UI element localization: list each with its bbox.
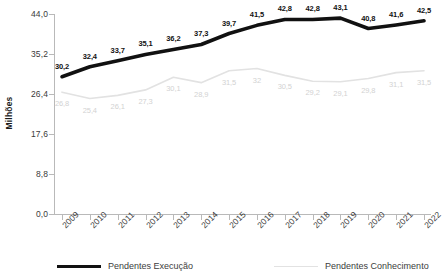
x-axis-tick-mark (313, 215, 314, 220)
data-label-conhecimento: 30,5 (278, 82, 292, 91)
data-label-conhecimento: 28,9 (194, 89, 208, 98)
y-axis-tick-label: 17,6 (31, 129, 48, 139)
data-label-execucao: 42,8 (306, 4, 320, 13)
legend-item-pendentes-conhecimento[interactable]: Pendentes Conhecimento (274, 261, 429, 271)
x-axis-tick-mark (368, 215, 369, 220)
data-label-conhecimento: 27,3 (138, 96, 152, 105)
data-label-conhecimento: 31,5 (417, 77, 431, 86)
data-label-execucao: 40,8 (361, 13, 375, 22)
data-label-execucao: 37,3 (194, 29, 208, 38)
x-axis-tick-mark (118, 215, 119, 220)
y-axis-tick-mark (49, 174, 54, 175)
y-axis-tick-label: 44,0 (31, 9, 48, 19)
x-axis-tick-mark (201, 215, 202, 220)
plot-lines (55, 14, 431, 214)
data-label-conhecimento: 31,1 (389, 79, 403, 88)
x-axis-tick-mark (257, 215, 258, 220)
data-label-conhecimento: 25,4 (83, 105, 97, 114)
y-axis-tick-mark (49, 14, 54, 15)
data-label-execucao: 32,4 (83, 51, 97, 60)
x-axis-tick-mark (340, 215, 341, 220)
y-axis-tick-label: 8,8 (36, 169, 48, 179)
data-label-execucao: 41,5 (250, 10, 264, 19)
data-label-execucao: 39,7 (222, 18, 236, 27)
data-label-execucao: 42,5 (417, 5, 431, 14)
x-axis-tick-mark (285, 215, 286, 220)
y-axis-title-label: Milhões (4, 96, 14, 129)
plot-area (55, 14, 431, 214)
x-axis-tick-mark (424, 215, 425, 220)
line-pendentes-conhecimento (62, 69, 424, 99)
legend-swatch-icon-conhecimento (274, 266, 318, 267)
y-axis-tick-label: 35,2 (31, 49, 48, 59)
y-axis-tick-mark (49, 54, 54, 55)
y-axis-tick-labels: 0,08,817,626,435,244,0 (18, 14, 51, 214)
chart-legend: Pendentes Execução Pendentes Conheciment… (55, 258, 425, 274)
data-label-conhecimento: 26,1 (111, 102, 125, 111)
data-label-execucao: 30,2 (55, 61, 69, 70)
data-label-conhecimento: 30,1 (166, 84, 180, 93)
data-label-conhecimento: 29,2 (306, 88, 320, 97)
data-label-conhecimento: 31,5 (222, 77, 236, 86)
legend-swatch-icon-execucao (57, 265, 101, 268)
legend-label-conhecimento: Pendentes Conhecimento (325, 261, 429, 271)
x-axis-tick-mark (229, 215, 230, 220)
x-axis-tick-mark (396, 215, 397, 220)
data-label-conhecimento: 32 (253, 75, 261, 84)
x-axis-tick-mark (62, 215, 63, 220)
data-label-execucao: 36,2 (166, 34, 180, 43)
data-label-conhecimento: 29,8 (361, 85, 375, 94)
y-axis-tick-label: 0,0 (36, 209, 48, 219)
y-axis-tick-label: 26,4 (31, 89, 48, 99)
data-label-execucao: 42,8 (278, 4, 292, 13)
legend-item-pendentes-execucao[interactable]: Pendentes Execução (57, 261, 193, 271)
data-label-execucao: 43,1 (333, 3, 347, 12)
x-axis-line (54, 214, 431, 215)
data-label-execucao: 33,7 (111, 45, 125, 54)
data-label-execucao: 35,1 (138, 39, 152, 48)
x-axis-tick-mark (146, 215, 147, 220)
legend-label-execucao: Pendentes Execução (108, 261, 193, 271)
data-label-execucao: 41,6 (389, 9, 403, 18)
y-axis-tick-mark (49, 94, 54, 95)
data-label-conhecimento: 26,8 (55, 99, 69, 108)
x-axis-tick-mark (173, 215, 174, 220)
y-axis-title: Milhões (0, 0, 18, 225)
y-axis-tick-mark (49, 214, 54, 215)
x-axis-tick-mark (90, 215, 91, 220)
y-axis-tick-mark (49, 134, 54, 135)
data-label-conhecimento: 29,1 (333, 88, 347, 97)
